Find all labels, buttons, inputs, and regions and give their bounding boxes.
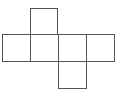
face-top bbox=[30, 8, 58, 35]
face-bottom bbox=[58, 61, 87, 89]
face-row-1 bbox=[2, 34, 31, 62]
face-row-2 bbox=[30, 34, 59, 62]
face-row-3 bbox=[58, 34, 87, 62]
face-row-4 bbox=[86, 34, 115, 62]
cube-net-diagram bbox=[0, 0, 123, 92]
